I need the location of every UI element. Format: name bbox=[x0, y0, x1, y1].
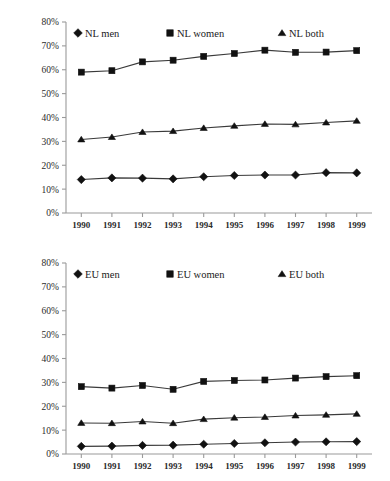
legend-marker-triangle bbox=[278, 271, 286, 277]
x-axis-tick-label: 1999 bbox=[348, 461, 367, 471]
y-axis-tick-label: 60% bbox=[42, 65, 60, 75]
data-point-marker bbox=[140, 59, 146, 65]
data-point-marker bbox=[353, 438, 361, 446]
chart-panel-eu: 0%10%20%30%40%50%60%70%80%19901991199219… bbox=[0, 240, 390, 481]
x-axis-tick-label: 1998 bbox=[317, 461, 336, 471]
data-point-marker bbox=[231, 51, 237, 57]
series-line-nl-women bbox=[81, 50, 356, 72]
data-point-marker bbox=[170, 57, 176, 63]
data-point-marker bbox=[108, 174, 116, 182]
series-line-nl-men bbox=[81, 173, 356, 180]
data-point-marker bbox=[170, 386, 176, 392]
data-point-marker bbox=[293, 49, 299, 55]
y-axis-tick-label: 20% bbox=[42, 402, 60, 412]
x-axis-tick-label: 1992 bbox=[134, 220, 153, 230]
legend-label-nl-men: NL men bbox=[85, 28, 120, 39]
x-axis-tick-label: 1997 bbox=[287, 461, 306, 471]
y-axis-tick-label: 10% bbox=[42, 185, 60, 195]
y-axis-tick-label: 10% bbox=[42, 426, 60, 436]
line-chart-eu: 0%10%20%30%40%50%60%70%80%19901991199219… bbox=[0, 240, 390, 481]
x-axis-tick-label: 1993 bbox=[164, 220, 183, 230]
plot-area-eu: 0%10%20%30%40%50%60%70%80%19901991199219… bbox=[0, 240, 390, 481]
y-axis-tick-label: 0% bbox=[46, 208, 59, 218]
data-point-marker bbox=[230, 171, 238, 179]
x-axis-tick-label: 1996 bbox=[256, 461, 275, 471]
data-point-marker bbox=[138, 174, 146, 182]
legend-label-eu-women: EU women bbox=[177, 269, 225, 280]
data-point-marker bbox=[78, 384, 84, 390]
data-point-marker bbox=[354, 373, 360, 379]
data-point-marker bbox=[169, 441, 177, 449]
legend-marker-triangle bbox=[278, 30, 286, 36]
data-point-marker bbox=[77, 176, 85, 184]
legend-label-eu-both: EU both bbox=[289, 269, 325, 280]
y-axis-tick-label: 80% bbox=[42, 17, 60, 27]
series-line-eu-men bbox=[81, 442, 356, 447]
y-axis-tick-label: 40% bbox=[42, 354, 60, 364]
x-axis-tick-label: 1991 bbox=[103, 220, 122, 230]
data-point-marker bbox=[201, 53, 207, 59]
y-axis-tick-label: 20% bbox=[42, 161, 60, 171]
data-point-marker bbox=[293, 375, 299, 381]
y-axis-tick-label: 80% bbox=[42, 258, 60, 268]
x-axis-tick-label: 1996 bbox=[256, 220, 275, 230]
data-point-marker bbox=[200, 440, 208, 448]
data-point-marker bbox=[230, 439, 238, 447]
y-axis-tick-label: 60% bbox=[42, 306, 60, 316]
data-point-marker bbox=[231, 377, 237, 383]
plot-area-nl: 0%10%20%30%40%50%60%70%80%19901991199219… bbox=[0, 0, 390, 240]
data-point-marker bbox=[138, 441, 146, 449]
data-point-marker bbox=[354, 48, 360, 54]
data-point-marker bbox=[200, 173, 208, 181]
x-axis-tick-label: 1994 bbox=[195, 220, 214, 230]
x-axis-tick-label: 1993 bbox=[164, 461, 183, 471]
x-axis-tick-label: 1994 bbox=[195, 461, 214, 471]
data-point-marker bbox=[201, 378, 207, 384]
y-axis-tick-label: 50% bbox=[42, 89, 60, 99]
data-point-marker bbox=[77, 442, 85, 450]
y-axis-tick-label: 70% bbox=[42, 282, 60, 292]
y-axis-tick-label: 30% bbox=[42, 137, 60, 147]
x-axis-tick-label: 1992 bbox=[134, 461, 153, 471]
data-point-marker bbox=[109, 68, 115, 74]
legend-label-nl-women: NL women bbox=[177, 28, 225, 39]
y-axis-tick-label: 70% bbox=[42, 41, 60, 51]
data-point-marker bbox=[262, 377, 268, 383]
figure-two-line-charts: 0%10%20%30%40%50%60%70%80%19901991199219… bbox=[0, 0, 390, 481]
series-line-eu-both bbox=[81, 414, 356, 423]
data-point-marker bbox=[140, 382, 146, 388]
x-axis-tick-label: 1999 bbox=[348, 220, 367, 230]
y-axis-tick-label: 40% bbox=[42, 113, 60, 123]
data-point-marker bbox=[322, 438, 330, 446]
x-axis-tick-label: 1995 bbox=[225, 461, 244, 471]
chart-panel-nl: 0%10%20%30%40%50%60%70%80%19901991199219… bbox=[0, 0, 390, 240]
data-point-marker bbox=[323, 49, 329, 55]
line-chart-nl: 0%10%20%30%40%50%60%70%80%19901991199219… bbox=[0, 0, 390, 240]
legend-marker-square bbox=[167, 30, 173, 36]
data-point-marker bbox=[291, 171, 299, 179]
data-point-marker bbox=[291, 438, 299, 446]
y-axis-tick-label: 30% bbox=[42, 378, 60, 388]
data-point-marker bbox=[261, 171, 269, 179]
data-point-marker bbox=[108, 442, 116, 450]
legend-label-eu-men: EU men bbox=[85, 269, 120, 280]
x-axis-tick-label: 1997 bbox=[287, 220, 306, 230]
x-axis-tick-label: 1998 bbox=[317, 220, 336, 230]
data-point-marker bbox=[261, 439, 269, 447]
data-point-marker bbox=[262, 47, 268, 53]
x-axis-tick-label: 1990 bbox=[72, 220, 91, 230]
x-axis-tick-label: 1995 bbox=[225, 220, 244, 230]
data-point-marker bbox=[169, 175, 177, 183]
series-line-eu-women bbox=[81, 376, 356, 390]
legend-label-nl-both: NL both bbox=[289, 28, 325, 39]
x-axis-tick-label: 1990 bbox=[72, 461, 91, 471]
legend-marker-diamond bbox=[74, 29, 83, 38]
legend-marker-square bbox=[167, 271, 173, 277]
data-point-marker bbox=[322, 169, 330, 177]
series-line-nl-both bbox=[81, 121, 356, 140]
data-point-marker bbox=[353, 169, 361, 177]
y-axis-tick-label: 0% bbox=[46, 449, 59, 459]
data-point-marker bbox=[109, 385, 115, 391]
legend-marker-diamond bbox=[74, 270, 83, 279]
data-point-marker bbox=[323, 374, 329, 380]
